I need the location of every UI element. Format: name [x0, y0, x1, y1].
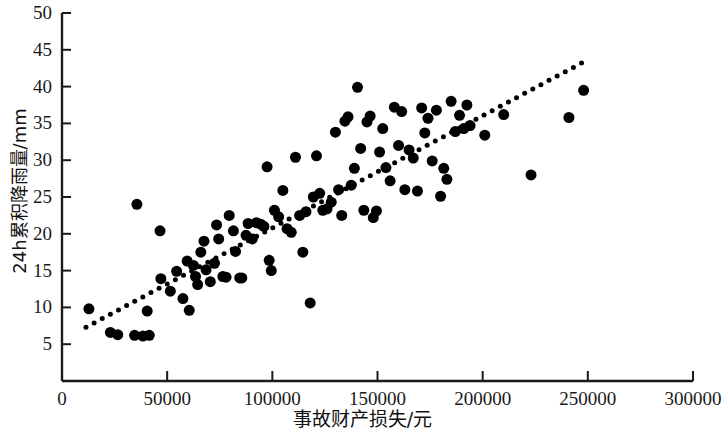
data-point [142, 306, 153, 317]
trend-line-dot [287, 216, 292, 221]
trend-line [83, 61, 584, 330]
data-point [112, 329, 123, 340]
data-point [273, 211, 284, 222]
y-tick-label: 5 [10, 334, 52, 353]
data-point [333, 184, 344, 195]
data-points [83, 82, 589, 342]
trend-line-dot [124, 303, 129, 308]
data-point [211, 219, 222, 230]
data-point [371, 205, 382, 216]
data-point [230, 246, 241, 257]
data-point [461, 100, 472, 111]
data-point [377, 123, 388, 134]
trend-line-dot [319, 199, 324, 204]
data-point [465, 120, 476, 131]
data-point [83, 303, 94, 314]
data-point [224, 210, 235, 221]
trend-line-dot [547, 78, 552, 83]
data-point [374, 147, 385, 158]
data-point [412, 186, 423, 197]
trend-line-dot [132, 299, 137, 304]
data-point [155, 273, 166, 284]
axes [62, 13, 693, 381]
data-point [213, 233, 224, 244]
data-point [236, 272, 247, 283]
data-point [422, 113, 433, 124]
data-point [343, 111, 354, 122]
trend-line-dot [165, 281, 170, 286]
data-point [144, 330, 155, 341]
data-point [205, 276, 216, 287]
data-point [441, 174, 452, 185]
y-axis-title: 24h累积降雨量/mm [5, 91, 31, 291]
trend-line-dot [157, 286, 162, 291]
trend-line-dot [311, 203, 316, 208]
trend-line-dot [238, 242, 243, 247]
data-point [314, 188, 325, 199]
trend-line-dot [376, 169, 381, 174]
axis-ticks [62, 13, 693, 381]
trend-line-dot [482, 113, 487, 118]
data-point [438, 163, 449, 174]
data-point [380, 162, 391, 173]
data-point [416, 102, 427, 113]
data-point [311, 150, 322, 161]
trend-line-dot [392, 160, 397, 165]
data-point [358, 205, 369, 216]
y-tick-label: 45 [10, 40, 52, 59]
data-point [393, 140, 404, 151]
data-point [336, 210, 347, 221]
trend-line-dot [116, 307, 121, 312]
data-point [365, 111, 376, 122]
trend-line-dot [555, 74, 560, 79]
data-point [435, 191, 446, 202]
trend-line-dot [92, 320, 97, 325]
trend-line-dot [514, 95, 519, 100]
trend-line-dot [433, 139, 438, 144]
data-point [277, 185, 288, 196]
data-point [305, 297, 316, 308]
trend-line-dot [530, 87, 535, 92]
data-point [346, 180, 357, 191]
data-point [396, 106, 407, 117]
y-tick-label: 50 [10, 3, 52, 22]
data-point [563, 112, 574, 123]
trend-line-dot [538, 82, 543, 87]
data-point [286, 227, 297, 238]
data-point [352, 82, 363, 93]
data-point [330, 127, 341, 138]
data-point [165, 286, 176, 297]
data-point [454, 110, 465, 121]
trend-line-dot [498, 104, 503, 109]
scatter-chart: 5101520253035404550 05000010000015000020… [0, 0, 725, 435]
trend-line-dot [108, 312, 113, 317]
trend-line-dot [222, 251, 227, 256]
data-point [526, 169, 537, 180]
data-point [385, 175, 396, 186]
trend-line-dot [173, 277, 178, 282]
data-point [247, 233, 258, 244]
data-point [578, 85, 589, 96]
trend-line-dot [563, 69, 568, 74]
data-point [326, 197, 337, 208]
data-point [446, 96, 457, 107]
data-point [184, 305, 195, 316]
trend-line-dot [140, 294, 145, 299]
data-point [300, 206, 311, 217]
trend-line-dot [100, 316, 105, 321]
trend-line-dot [417, 147, 422, 152]
data-point [188, 260, 199, 271]
trend-line-dot [571, 65, 576, 70]
trend-line-dot [441, 134, 446, 139]
trend-line-dot [579, 61, 584, 66]
data-point [198, 236, 209, 247]
data-point [419, 127, 430, 138]
data-point [155, 225, 166, 236]
trend-line-dot [473, 117, 478, 122]
data-point [349, 163, 360, 174]
trend-line-dot [490, 108, 495, 113]
data-point [427, 155, 438, 166]
data-point [192, 279, 203, 290]
data-point [297, 247, 308, 258]
data-point [266, 265, 277, 276]
